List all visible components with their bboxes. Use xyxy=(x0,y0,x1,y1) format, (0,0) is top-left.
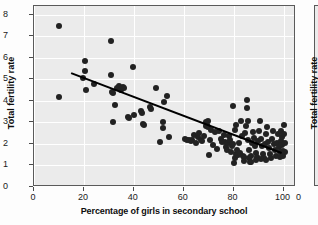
plot-area xyxy=(33,5,295,186)
x-tick-mark xyxy=(133,187,134,191)
y-axis-label: Total fertility rate xyxy=(6,33,16,153)
y-tick-mark xyxy=(29,14,33,15)
x-tick-mark xyxy=(233,187,234,191)
y-tick-mark xyxy=(29,164,33,165)
y-tick-mark xyxy=(29,143,33,144)
adjacent-x-tick-label: 0 xyxy=(296,192,301,202)
y-tick-mark xyxy=(29,78,33,79)
adjacent-y-axis-label: Total fertility rate xyxy=(309,33,318,153)
y-tick-mark xyxy=(29,35,33,36)
x-tick-label: 100 xyxy=(271,192,295,202)
x-tick-mark xyxy=(33,187,34,191)
x-tick-mark xyxy=(83,187,84,191)
scatter-chart-panel: 012345678 020406080100 Percentage of gir… xyxy=(0,0,300,225)
regression-trendline xyxy=(34,6,294,185)
x-tick-label: 20 xyxy=(71,192,95,202)
y-tick-label: 1 xyxy=(0,160,8,169)
y-tick-mark xyxy=(29,100,33,101)
y-tick-mark xyxy=(29,57,33,58)
x-tick-label: 0 xyxy=(21,192,45,202)
x-tick-mark xyxy=(283,187,284,191)
adjacent-chart-panel-partial: Total fertility rate 0 xyxy=(300,0,318,225)
x-axis-label: Percentage of girls in secondary school xyxy=(33,206,295,216)
y-tick-label: 0 xyxy=(0,182,8,191)
x-tick-label: 40 xyxy=(121,192,145,202)
y-tick-label: 8 xyxy=(0,10,8,19)
x-tick-label: 80 xyxy=(221,192,245,202)
x-tick-mark xyxy=(183,187,184,191)
y-tick-mark xyxy=(29,121,33,122)
x-tick-label: 60 xyxy=(171,192,195,202)
figure-container: 012345678 020406080100 Percentage of gir… xyxy=(0,0,318,225)
